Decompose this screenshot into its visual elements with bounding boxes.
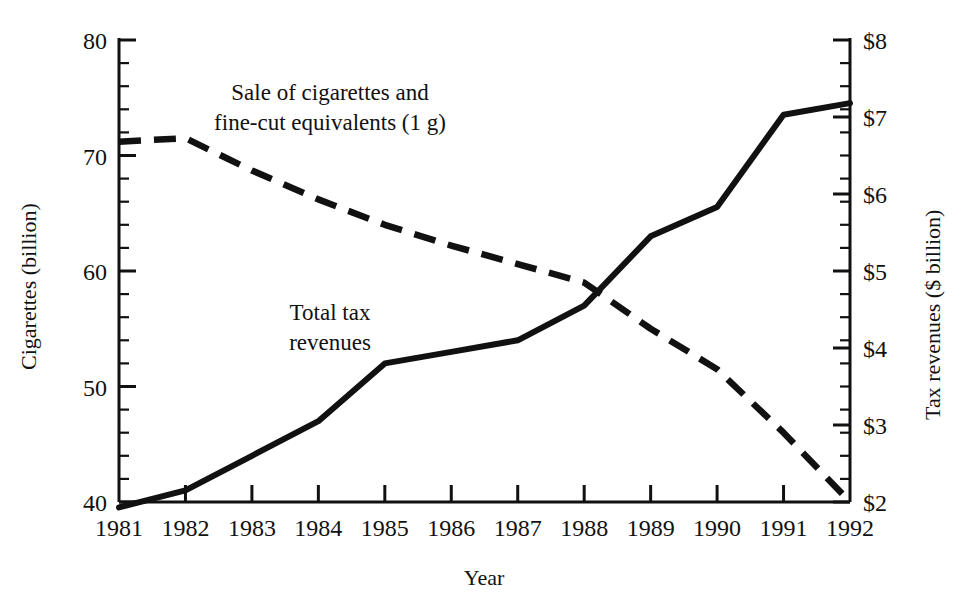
x-tick-label: 1992 bbox=[826, 515, 874, 541]
y-tick-label: 40 bbox=[83, 490, 107, 516]
chart-background bbox=[0, 0, 965, 594]
y2-tick-label: $4 bbox=[863, 336, 887, 362]
y2-tick-label: $2 bbox=[863, 490, 887, 516]
y2-tick-label: $7 bbox=[863, 105, 887, 131]
x-axis-title: Year bbox=[464, 565, 505, 590]
x-tick-label: 1982 bbox=[161, 515, 209, 541]
y2-tick-label: $6 bbox=[863, 182, 887, 208]
x-tick-label: 1986 bbox=[427, 515, 475, 541]
x-tick-label: 1984 bbox=[294, 515, 342, 541]
y2-tick-label: $5 bbox=[863, 259, 887, 285]
y2-axis-title: Tax revenues ($ billion) bbox=[920, 210, 945, 420]
x-tick-label: 1989 bbox=[627, 515, 675, 541]
y2-tick-label: $3 bbox=[863, 413, 887, 439]
chart-root: 4050607080$2$3$4$5$6$7$81981198219831984… bbox=[0, 0, 965, 594]
y2-tick-label: $8 bbox=[863, 28, 887, 54]
x-tick-label: 1990 bbox=[693, 515, 741, 541]
annot-tax-revenues-line1: Total tax bbox=[290, 300, 371, 325]
y-tick-label: 60 bbox=[83, 259, 107, 285]
x-tick-label: 1981 bbox=[95, 515, 143, 541]
annot-cigarette-sales-line2: fine-cut equivalents (1 g) bbox=[214, 110, 446, 135]
x-tick-label: 1991 bbox=[760, 515, 808, 541]
y-tick-label: 70 bbox=[83, 144, 107, 170]
x-tick-label: 1988 bbox=[560, 515, 608, 541]
annot-cigarette-sales-line1: Sale of cigarettes and bbox=[231, 80, 429, 105]
x-tick-label: 1983 bbox=[228, 515, 276, 541]
annot-tax-revenues-line2: revenues bbox=[289, 330, 371, 355]
y-axis-title: Cigarettes (billion) bbox=[16, 203, 41, 370]
y-tick-label: 50 bbox=[83, 375, 107, 401]
x-tick-label: 1985 bbox=[361, 515, 409, 541]
line-chart: 4050607080$2$3$4$5$6$7$81981198219831984… bbox=[0, 0, 965, 594]
x-tick-label: 1987 bbox=[494, 515, 542, 541]
y-tick-label: 80 bbox=[83, 28, 107, 54]
